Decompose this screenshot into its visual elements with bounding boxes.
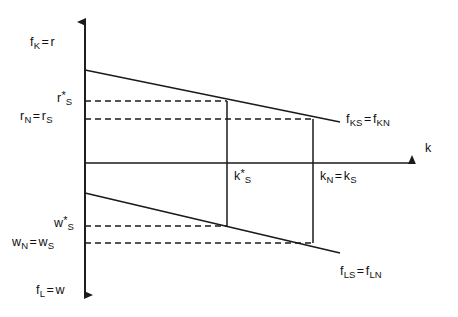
label-subscript-2: KN [377,117,390,128]
label-subscript: S [66,96,72,107]
r-star-S-label: r*S [57,92,72,105]
label-equals: = [31,109,42,123]
capital-rental-curve [85,70,340,122]
label-equals: = [355,264,366,278]
label-base-2: f [366,264,370,278]
label-equals: = [362,112,373,126]
vertical-axis-top-label: fK=r [30,36,55,49]
label-subscript: S [245,174,251,185]
label-equals: = [40,35,51,49]
label-subscript-2: S [46,114,52,125]
k-star-S-label: k*S [234,170,251,183]
label-subscript-2: LN [370,269,382,280]
label-superscript: * [63,214,67,226]
label-subscript-1: KS [350,117,363,128]
label-subscript-1: N [24,114,31,125]
label-subscript-1: LS [344,269,356,280]
label-subscript-1: N [21,240,28,251]
label-base: w [54,216,63,230]
w-N-equals-w-S-label: wN=wS [12,236,54,249]
label-subscript-2: S [48,240,54,251]
label-subscript-1: N [326,174,333,185]
label-equals: = [333,169,344,183]
label-base-2: f [373,112,377,126]
vertical-axis-bottom-label: fL=w [36,284,65,297]
label-subscript-2: S [350,174,356,185]
label-equals: = [45,283,56,297]
k-N-equals-k-S-label: kN=kS [320,170,357,183]
label-base-2: w [39,235,48,249]
label-subscript: S [68,221,74,232]
economics-diagram: fK=r r*S rN=rS fKS=fKN k k*S kN=kS w*S w… [0,0,458,317]
labour-wage-curve-label: fLS=fLN [340,265,382,278]
w-star-S-label: w*S [54,217,74,230]
label-rhs: r [51,35,55,49]
labour-wage-curve [85,193,340,253]
label-rhs: w [55,283,64,297]
capital-rental-curve-label: fKS=fKN [346,113,390,126]
horizontal-axis-label: k [425,142,431,155]
label-subscript: K [34,40,40,51]
label-equals: = [28,235,39,249]
diagram-canvas [0,0,458,317]
label-base-1: w [12,235,21,249]
r-N-equals-r-S-label: rN=rS [20,110,52,123]
label-subscript: L [40,288,45,299]
label-superscript: * [61,89,65,101]
